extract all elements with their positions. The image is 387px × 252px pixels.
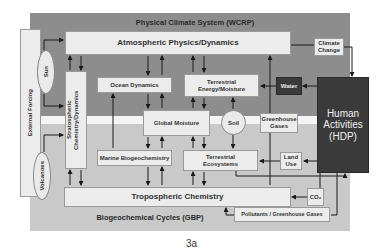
ocean-dynamics-box: Ocean Dynamics [97,77,172,93]
external-forcing-label: External Forcing [27,89,34,136]
atmospheric-physics-box: Atmospheric Physics/Dynamics [65,31,291,55]
stratospheric-chemistry-box: Stratospheric Chemistry/Dynamics [65,71,87,169]
soil-node: Soil [221,110,246,135]
marine-biogeochemistry-box: Marine Biogeochemistry [97,150,172,166]
climate-change-box: Climate Change [314,38,344,56]
stratospheric-label: Stratospheric Chemistry/Dynamics [66,72,86,168]
figure-label: 3a [186,238,197,249]
volcanoes-label: Volcanoes [39,161,45,191]
greenhouse-gases-box: Greenhouse Gases [260,113,298,133]
terrestrial-energy-box: Terrestrial Energy/Moisture [184,74,259,97]
terrestrial-ecosystems-box: Terrestrial Ecosystems [183,150,258,171]
global-moisture-box: Global Moisture [143,110,210,136]
sun-node: Sun [37,50,55,94]
tropospheric-chemistry-box: Tropospheric Chemistry [64,187,291,207]
sun-label: Sun [43,66,49,77]
co2-box: CO₂ [307,188,324,206]
volcanoes-node: Volcanoes [33,152,51,200]
land-use-box: Land Use [280,152,302,170]
water-box: Water [276,77,302,95]
human-activities-box: Human Activities (HDP) [317,77,369,173]
pollutants-greenhouse-box: Pollutants / Greenhouse Gases [234,207,330,222]
